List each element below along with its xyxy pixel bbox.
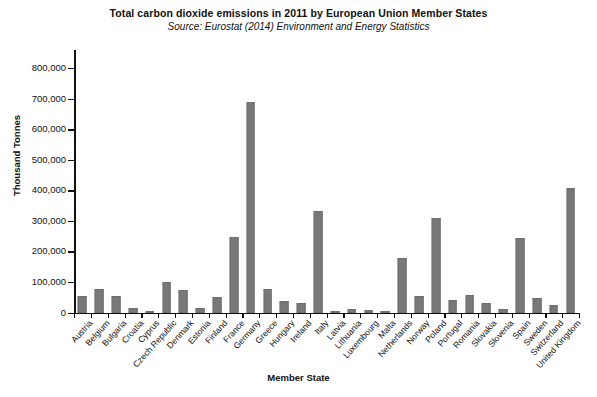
y-tick-label: 500,000 bbox=[4, 154, 66, 165]
bar-slot[interactable] bbox=[444, 50, 461, 313]
y-tick-label: 700,000 bbox=[4, 93, 66, 104]
y-axis-labels: 0100,000200,000300,000400,000500,000600,… bbox=[0, 0, 66, 397]
bar-slot[interactable] bbox=[461, 50, 478, 313]
y-tick-label: 100,000 bbox=[4, 276, 66, 287]
x-axis-title: Member State bbox=[0, 372, 597, 383]
bar[interactable] bbox=[566, 188, 575, 313]
bar-slot[interactable] bbox=[411, 50, 428, 313]
bar[interactable] bbox=[246, 102, 255, 313]
bar-slot[interactable] bbox=[74, 50, 91, 313]
bar-slot[interactable] bbox=[276, 50, 293, 313]
bar-slot[interactable] bbox=[158, 50, 175, 313]
chart-container: Total carbon dioxide emissions in 2011 b… bbox=[0, 0, 597, 397]
y-tick-label: 200,000 bbox=[4, 245, 66, 256]
chart-title: Total carbon dioxide emissions in 2011 b… bbox=[0, 6, 597, 20]
bar-slot[interactable] bbox=[175, 50, 192, 313]
bar-slot[interactable] bbox=[377, 50, 394, 313]
bar-slot[interactable] bbox=[125, 50, 142, 313]
bar-slot[interactable] bbox=[529, 50, 546, 313]
bar-slot[interactable] bbox=[327, 50, 344, 313]
bar-series bbox=[74, 50, 579, 313]
bar-slot[interactable] bbox=[310, 50, 327, 313]
bar-slot[interactable] bbox=[108, 50, 125, 313]
bar-slot[interactable] bbox=[360, 50, 377, 313]
bar-slot[interactable] bbox=[259, 50, 276, 313]
bar-slot[interactable] bbox=[242, 50, 259, 313]
bar-slot[interactable] bbox=[394, 50, 411, 313]
chart-titles: Total carbon dioxide emissions in 2011 b… bbox=[0, 6, 597, 33]
bar-slot[interactable] bbox=[192, 50, 209, 313]
y-tick-label: 300,000 bbox=[4, 215, 66, 226]
bar-slot[interactable] bbox=[428, 50, 445, 313]
bar-slot[interactable] bbox=[545, 50, 562, 313]
bar-slot[interactable] bbox=[512, 50, 529, 313]
y-tick-label: 800,000 bbox=[4, 62, 66, 73]
bar-slot[interactable] bbox=[495, 50, 512, 313]
bar[interactable] bbox=[78, 296, 87, 313]
chart-subtitle: Source: Eurostat (2014) Environment and … bbox=[0, 20, 597, 33]
bar-slot[interactable] bbox=[478, 50, 495, 313]
bar-slot[interactable] bbox=[226, 50, 243, 313]
y-tick-label: 400,000 bbox=[4, 184, 66, 195]
bar-slot[interactable] bbox=[141, 50, 158, 313]
y-tick-label: 0 bbox=[4, 307, 66, 318]
y-tick-label: 600,000 bbox=[4, 123, 66, 134]
bar-slot[interactable] bbox=[293, 50, 310, 313]
bar-slot[interactable] bbox=[343, 50, 360, 313]
bar-slot[interactable] bbox=[562, 50, 579, 313]
x-axis-labels: AustriaBelgiumBulgariaCroatiaCyprusCzech… bbox=[74, 318, 594, 396]
bar-slot[interactable] bbox=[91, 50, 108, 313]
